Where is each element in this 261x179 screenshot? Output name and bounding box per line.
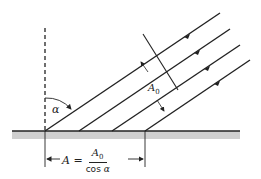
area-formula: A = A0 cos α: [60, 147, 112, 174]
ray-1: [45, 13, 220, 131]
ray-3: [112, 45, 240, 131]
numerator-subscript: 0: [99, 153, 103, 161]
beam-width-arrow-lower: [157, 100, 164, 111]
numerator-symbol: A: [92, 147, 99, 158]
formula-lhs: A =: [62, 154, 83, 167]
formula-fraction: A0 cos α: [86, 147, 110, 174]
angle-label: α: [52, 104, 59, 115]
incidence-diagram: [0, 0, 261, 179]
denominator-variable: α: [104, 164, 110, 174]
ray-4: [145, 60, 250, 131]
formula-denominator: cos α: [86, 163, 110, 174]
denominator-text: cos: [86, 164, 104, 174]
beam-width-label: A0: [148, 83, 160, 96]
surface-shade: [12, 131, 240, 139]
formula-numerator: A0: [89, 147, 107, 163]
beam-width-subscript: 0: [155, 88, 159, 96]
ray-2: [79, 29, 230, 131]
rays: [45, 13, 250, 131]
